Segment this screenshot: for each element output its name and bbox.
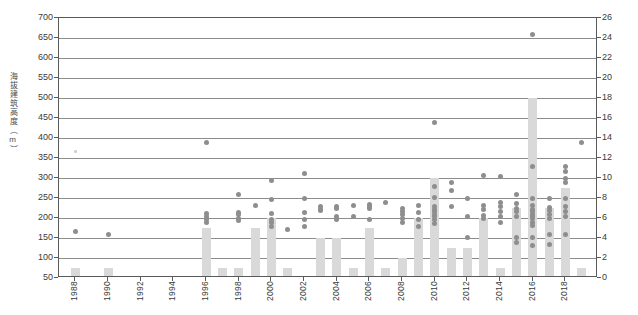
- scatter-point[interactable]: [432, 120, 437, 125]
- gridline: [59, 138, 596, 139]
- scatter-point[interactable]: [351, 203, 356, 208]
- scatter-point[interactable]: [498, 174, 503, 179]
- scatter-point[interactable]: [106, 232, 111, 237]
- scatter-point[interactable]: [302, 224, 307, 229]
- bar[interactable]: [463, 248, 472, 277]
- scatter-point[interactable]: [465, 196, 470, 201]
- scatter-point[interactable]: [530, 235, 535, 240]
- scatter-point[interactable]: [416, 217, 421, 222]
- bar[interactable]: [218, 268, 227, 277]
- scatter-point[interactable]: [530, 164, 535, 169]
- y-axis-right-tickmark: [597, 117, 601, 118]
- scatter-point[interactable]: [74, 150, 77, 153]
- y-axis-right-tickmark: [597, 277, 601, 278]
- scatter-point[interactable]: [547, 196, 552, 201]
- gridline: [59, 178, 596, 179]
- y-axis-left-tick-label: 50: [6, 272, 58, 282]
- bar[interactable]: [202, 228, 211, 277]
- scatter-point[interactable]: [563, 169, 568, 174]
- scatter-point[interactable]: [530, 32, 535, 37]
- x-axis-tick-label: 2000: [265, 281, 275, 301]
- scatter-point[interactable]: [514, 192, 519, 197]
- scatter-point[interactable]: [563, 164, 568, 169]
- scatter-point[interactable]: [579, 140, 584, 145]
- scatter-point[interactable]: [73, 229, 78, 234]
- y-axis-right-tick-label: 20: [597, 72, 637, 82]
- scatter-point[interactable]: [514, 240, 519, 245]
- scatter-point[interactable]: [481, 207, 486, 212]
- scatter-point[interactable]: [432, 195, 437, 200]
- scatter-point[interactable]: [269, 197, 274, 202]
- bar[interactable]: [332, 238, 341, 277]
- scatter-point[interactable]: [302, 217, 307, 222]
- scatter-point[interactable]: [449, 180, 454, 185]
- bar[interactable]: [71, 268, 80, 277]
- scatter-point[interactable]: [449, 188, 454, 193]
- scatter-point[interactable]: [269, 224, 274, 229]
- scatter-point[interactable]: [269, 211, 274, 216]
- scatter-point[interactable]: [547, 232, 552, 237]
- scatter-point[interactable]: [302, 196, 307, 201]
- scatter-point[interactable]: [204, 220, 209, 225]
- scatter-point[interactable]: [302, 210, 307, 215]
- x-axis-tick-label: 2012: [461, 281, 471, 301]
- y-axis-right-tickmark: [597, 57, 601, 58]
- scatter-point[interactable]: [400, 220, 405, 225]
- x-axis-tick-label: 1992: [135, 281, 145, 301]
- scatter-point[interactable]: [334, 206, 339, 211]
- scatter-point[interactable]: [547, 216, 552, 221]
- y-axis-left-tick-label: 450: [6, 112, 58, 122]
- bar[interactable]: [577, 268, 586, 277]
- y-axis-left-tick-label: 550: [6, 72, 58, 82]
- scatter-point[interactable]: [498, 214, 503, 219]
- scatter-point[interactable]: [285, 227, 290, 232]
- scatter-point[interactable]: [514, 214, 519, 219]
- bar[interactable]: [365, 228, 374, 277]
- bar[interactable]: [234, 268, 243, 277]
- scatter-point[interactable]: [253, 203, 258, 208]
- scatter-point[interactable]: [563, 180, 568, 185]
- scatter-point[interactable]: [432, 184, 437, 189]
- scatter-point[interactable]: [204, 140, 209, 145]
- scatter-point[interactable]: [383, 200, 388, 205]
- bar[interactable]: [496, 268, 505, 277]
- y-axis-right-tick-label: 18: [597, 92, 637, 102]
- scatter-point[interactable]: [318, 208, 323, 213]
- scatter-point[interactable]: [416, 210, 421, 215]
- gridline: [59, 158, 596, 159]
- bar[interactable]: [316, 238, 325, 277]
- scatter-point[interactable]: [514, 235, 519, 240]
- gridline: [59, 198, 596, 199]
- bar[interactable]: [479, 218, 488, 277]
- bar[interactable]: [251, 228, 260, 277]
- scatter-point[interactable]: [498, 220, 503, 225]
- scatter-point[interactable]: [547, 242, 552, 247]
- y-axis-left-tick-label: 600: [6, 52, 58, 62]
- bar[interactable]: [398, 258, 407, 277]
- scatter-point[interactable]: [416, 203, 421, 208]
- scatter-point[interactable]: [367, 206, 372, 211]
- bar[interactable]: [447, 248, 456, 277]
- scatter-point[interactable]: [269, 178, 274, 183]
- scatter-point[interactable]: [449, 204, 454, 209]
- scatter-point[interactable]: [530, 243, 535, 248]
- scatter-point[interactable]: [367, 217, 372, 222]
- scatter-point[interactable]: [563, 214, 568, 219]
- bar[interactable]: [283, 268, 292, 277]
- bar[interactable]: [349, 268, 358, 277]
- scatter-point[interactable]: [465, 235, 470, 240]
- scatter-point[interactable]: [302, 171, 307, 176]
- scatter-point[interactable]: [563, 232, 568, 237]
- y-axis-right: 02468101214161820222426: [597, 17, 638, 277]
- scatter-point[interactable]: [465, 214, 470, 219]
- bar[interactable]: [381, 268, 390, 277]
- scatter-point[interactable]: [351, 214, 356, 219]
- bar[interactable]: [430, 178, 439, 277]
- bar[interactable]: [104, 268, 113, 277]
- scatter-point[interactable]: [530, 223, 535, 228]
- scatter-point[interactable]: [334, 217, 339, 222]
- scatter-point[interactable]: [530, 196, 535, 201]
- bar[interactable]: [528, 98, 537, 277]
- scatter-point[interactable]: [236, 192, 241, 197]
- scatter-point[interactable]: [236, 218, 241, 223]
